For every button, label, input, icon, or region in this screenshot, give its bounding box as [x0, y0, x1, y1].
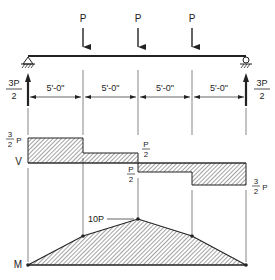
- point-load-1: P: [80, 13, 87, 47]
- shear-label-left: 3 2 P: [6, 130, 22, 149]
- span-label-2: 5'-0": [102, 83, 120, 93]
- moment-axis-label: M: [14, 259, 22, 270]
- left-reaction: 3P 2: [6, 73, 31, 106]
- left-reaction-denominator: 2: [11, 91, 16, 101]
- svg-text:P: P: [143, 140, 148, 149]
- svg-text:2: 2: [129, 175, 134, 184]
- right-roller-support-icon: [240, 57, 252, 68]
- moment-peak-label: 10P: [88, 214, 104, 224]
- shear-label-right: 3 2 P: [252, 177, 268, 196]
- svg-text:3: 3: [254, 177, 259, 186]
- right-reaction-denominator: 2: [259, 91, 264, 101]
- svg-text:P: P: [16, 136, 21, 145]
- beam-diagram: P P P 3P 2 3P 2: [0, 0, 275, 280]
- load-label: P: [80, 13, 87, 24]
- span-label-1: 5'-0": [47, 83, 65, 93]
- shear-axis-label: V: [15, 156, 22, 167]
- svg-text:2: 2: [254, 187, 259, 196]
- moment-diagram: M 10P: [14, 214, 248, 270]
- svg-text:P: P: [128, 165, 133, 174]
- svg-text:3: 3: [8, 130, 13, 139]
- left-pin-support-icon: [21, 57, 35, 68]
- dimension-lines: 5'-0" 5'-0" 5'-0" 5'-0": [30, 83, 244, 97]
- right-reaction: 3P 2: [243, 73, 270, 106]
- left-reaction-numerator: 3P: [8, 78, 19, 88]
- point-load-3: P: [189, 13, 196, 47]
- right-reaction-numerator: 3P: [256, 78, 267, 88]
- svg-text:2: 2: [8, 140, 13, 149]
- shear-label-mid-upper: P 2: [142, 140, 150, 159]
- span-label-4: 5'-0": [210, 83, 228, 93]
- svg-text:P: P: [262, 183, 267, 192]
- point-load-2: P: [135, 13, 142, 47]
- shear-diagram: V 3 2 P P 2 P 2 3 2 P: [6, 130, 268, 196]
- load-label: P: [189, 13, 196, 24]
- load-label: P: [135, 13, 142, 24]
- svg-text:2: 2: [144, 150, 149, 159]
- span-label-3: 5'-0": [156, 83, 174, 93]
- shear-label-mid-lower: P 2: [127, 165, 135, 184]
